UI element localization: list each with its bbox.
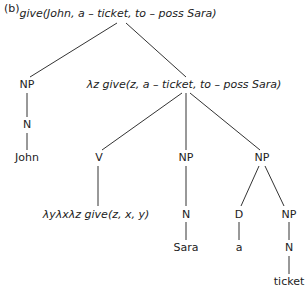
np1-n-node: N [182,208,190,221]
np2-inner-np-node: NP [282,208,297,221]
np2-n-node: N [285,241,293,254]
np1-node: NP [179,151,194,164]
edge-root-np [30,23,117,77]
edge-np2-np [265,166,284,206]
vp-node: λz give(z, a – ticket, to – poss Sara) [87,78,282,91]
panel-label: (b) [4,2,20,15]
d-node: D [235,208,243,221]
root-node: give(John, a – ticket, to – poss Sara) [19,7,216,20]
tree-edges [0,0,306,289]
word-sara: Sara [174,241,199,254]
np2-node: NP [255,151,270,164]
edge-np2-d [241,166,259,206]
v-node: V [95,151,103,164]
subject-n-node: N [23,118,31,131]
verb-semantics: λyλxλz give(z, x, y) [43,208,150,221]
edge-vp-v [102,93,182,150]
edge-root-vp [126,23,186,77]
subject-np-node: NP [20,78,35,91]
word-ticket: ticket [274,275,304,288]
word-john: John [15,151,39,164]
edge-vp-np2 [190,93,260,150]
word-a: a [236,241,243,254]
